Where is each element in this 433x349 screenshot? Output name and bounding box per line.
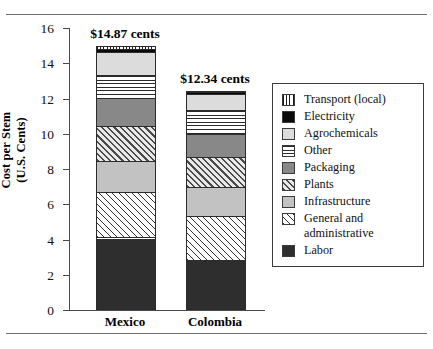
bar-segment-colombia-packaging[interactable] <box>187 135 245 158</box>
legend-label-line1: Agrochemicals <box>304 126 378 140</box>
y-tick-label-8: 8 <box>47 162 54 178</box>
bar-total-label-mexico: $14.87 cents <box>60 26 190 42</box>
bottom-divider-rule <box>6 333 427 334</box>
legend-label-transport-local: Transport (local) <box>304 92 386 106</box>
legend-swatch-electricity <box>282 111 295 123</box>
legend-label-infrastructure: Infrastructure <box>304 194 370 208</box>
chart-figure: Cost per Stem (U.S. Cents) 0246810121416… <box>0 0 433 349</box>
legend-label-packaging: Packaging <box>304 160 355 174</box>
legend-swatch-general-and <box>282 213 295 225</box>
bar-colombia[interactable] <box>186 91 246 310</box>
y-tick-label-14: 14 <box>41 56 55 72</box>
legend-label-other: Other <box>304 143 332 157</box>
legend-label-line1: Other <box>304 143 332 157</box>
bar-segment-colombia-plants[interactable] <box>187 158 245 188</box>
legend-label-plants: Plants <box>304 177 334 191</box>
bar-mexico[interactable] <box>96 46 156 310</box>
y-tick-2: 2 <box>63 275 69 276</box>
legend-label-line1: General and <box>304 211 374 225</box>
legend-label-line1: Labor <box>304 243 333 257</box>
legend-item-agrochemicals[interactable]: Agrochemicals <box>273 125 423 142</box>
legend-item-transport-local[interactable]: Transport (local) <box>273 91 423 108</box>
bar-segment-mexico-general-and-administrative[interactable] <box>97 193 155 239</box>
top-divider-rule <box>6 14 427 15</box>
y-tick-4: 4 <box>63 240 69 241</box>
y-tick-label-6: 6 <box>47 197 54 213</box>
legend-swatch-other <box>282 145 295 157</box>
y-tick-12: 12 <box>63 99 69 100</box>
y-tick-label-10: 10 <box>41 126 55 142</box>
y-tick-label-2: 2 <box>47 267 54 283</box>
bar-segment-colombia-other[interactable] <box>187 111 245 136</box>
y-axis-line <box>69 28 70 310</box>
legend-label-line1: Packaging <box>304 160 355 174</box>
legend-swatch-labor <box>282 245 295 257</box>
legend-label-general-and: General andadministrative <box>304 211 374 240</box>
y-tick-14: 14 <box>63 63 69 64</box>
y-tick-6: 6 <box>63 204 69 205</box>
bar-segment-colombia-general-and-administrative[interactable] <box>187 217 245 261</box>
bar-segment-colombia-infrastructure[interactable] <box>187 188 245 217</box>
legend-swatch-packaging <box>282 162 295 174</box>
y-tick-0: 0 <box>63 310 69 311</box>
y-tick-label-4: 4 <box>47 232 54 248</box>
bar-segment-colombia-agrochemicals[interactable] <box>187 95 245 111</box>
legend-swatch-infrastructure <box>282 196 295 208</box>
bar-segment-mexico-labor[interactable] <box>97 239 155 310</box>
legend-item-electricity[interactable]: Electricity <box>273 108 423 125</box>
legend-item-general-and[interactable]: General andadministrative <box>273 210 423 241</box>
legend-label-agrochemicals: Agrochemicals <box>304 126 378 140</box>
x-axis-label-colombia: Colombia <box>155 314 275 330</box>
y-axis-title-line2: (U.S. Cents) <box>14 80 29 220</box>
legend-item-labor[interactable]: Labor <box>273 241 423 258</box>
legend-swatch-agrochemicals <box>282 128 295 140</box>
bar-segment-mexico-infrastructure[interactable] <box>97 162 155 193</box>
legend-item-plants[interactable]: Plants <box>273 176 423 193</box>
legend-label-line1: Plants <box>304 177 334 191</box>
bar-total-label-colombia: $12.34 cents <box>150 71 280 87</box>
legend-item-infrastructure[interactable]: Infrastructure <box>273 193 423 210</box>
bar-segment-colombia-labor[interactable] <box>187 261 245 309</box>
legend-label-line1: Electricity <box>304 109 355 123</box>
bar-segment-mexico-agrochemicals[interactable] <box>97 53 155 76</box>
legend-item-other[interactable]: Other <box>273 142 423 159</box>
legend-label-electricity: Electricity <box>304 109 355 123</box>
y-tick-label-12: 12 <box>41 91 55 107</box>
bar-segment-mexico-packaging[interactable] <box>97 99 155 126</box>
plot-area: 0246810121416 $14.87 centsMexico$12.34 c… <box>69 28 265 310</box>
legend-swatch-plants <box>282 179 295 191</box>
bar-segment-mexico-other[interactable] <box>97 76 155 99</box>
y-axis-title: Cost per Stem (U.S. Cents) <box>0 80 29 220</box>
legend-label-line2: administrative <box>304 226 374 240</box>
x-axis-line <box>69 310 265 311</box>
chart-legend: Transport (local)ElectricityAgrochemical… <box>272 83 424 267</box>
y-tick-8: 8 <box>63 169 69 170</box>
legend-label-labor: Labor <box>304 243 333 257</box>
y-tick-label-16: 16 <box>41 21 55 37</box>
legend-label-line1: Transport (local) <box>304 92 386 106</box>
legend-swatch-transport-local <box>282 94 295 106</box>
bar-segment-mexico-plants[interactable] <box>97 127 155 162</box>
y-axis-title-line1: Cost per Stem <box>0 80 14 220</box>
y-tick-label-0: 0 <box>47 303 54 319</box>
legend-item-packaging[interactable]: Packaging <box>273 159 423 176</box>
legend-label-line1: Infrastructure <box>304 194 370 208</box>
y-tick-10: 10 <box>63 134 69 135</box>
